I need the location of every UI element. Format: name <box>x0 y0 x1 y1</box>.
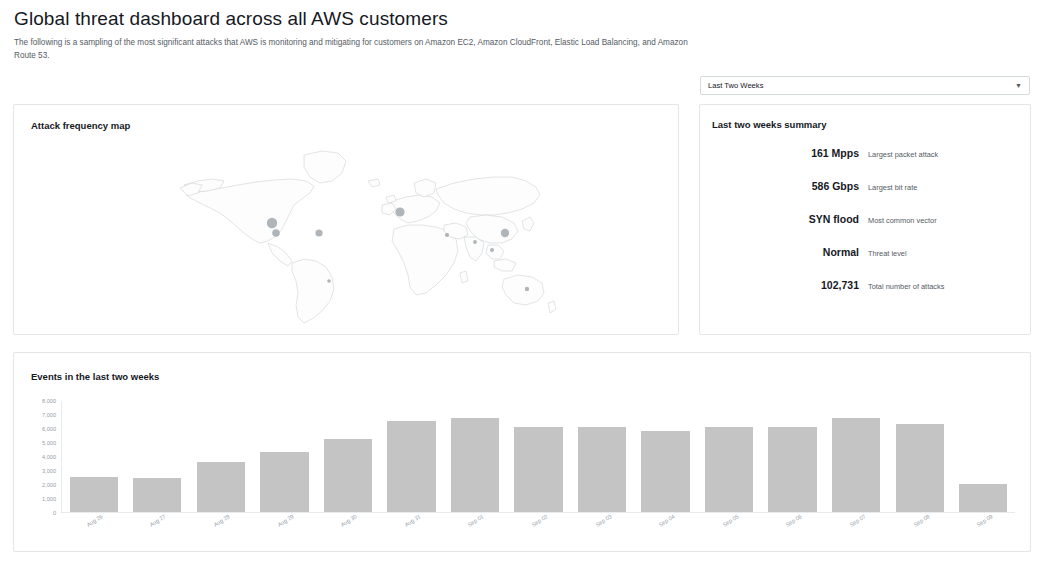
bar-slot <box>380 401 444 512</box>
y-axis-tick: 5,000 <box>42 440 56 446</box>
x-axis-tick-label: Sep 04 <box>658 513 676 527</box>
x-tick-slot: Aug 28 <box>188 514 252 548</box>
chart-x-axis: Aug 26Aug 27Aug 28Aug 29Aug 30Aug 31Sep … <box>61 514 1015 548</box>
chart-bars <box>62 401 1015 512</box>
x-axis-tick-label: Sep 06 <box>785 513 803 527</box>
x-axis-tick-label: Sep 02 <box>530 513 548 527</box>
x-tick-slot: Sep 03 <box>570 514 634 548</box>
dashboard-page: Global threat dashboard across all AWS c… <box>0 0 1043 561</box>
summary-value: SYN flood <box>700 213 868 225</box>
chevron-down-icon: ▼ <box>1015 82 1022 89</box>
world-map-svg <box>164 133 564 328</box>
y-axis-tick: 1,000 <box>42 496 56 502</box>
summary-list: 161 MppsLargest packet attack586 GbpsLar… <box>700 147 1030 312</box>
x-axis-tick-label: Sep 01 <box>467 513 485 527</box>
world-map <box>164 133 564 328</box>
bar[interactable] <box>959 484 1007 512</box>
x-tick-slot: Aug 26 <box>61 514 125 548</box>
marker-southeast-asia <box>490 248 494 252</box>
marker-us-west-south <box>272 229 280 237</box>
x-tick-slot: Aug 30 <box>315 514 379 548</box>
summary-value: Normal <box>700 246 868 258</box>
y-axis-tick: 4,000 <box>42 454 56 460</box>
bar-slot <box>443 401 507 512</box>
x-tick-slot: Sep 07 <box>824 514 888 548</box>
bar[interactable] <box>768 427 816 512</box>
marker-us-east <box>315 229 322 236</box>
x-axis-tick-label: Aug 29 <box>276 513 294 527</box>
y-axis-tick: 2,000 <box>42 482 56 488</box>
x-axis-tick-label: Sep 09 <box>976 513 994 527</box>
bar[interactable] <box>832 418 880 512</box>
attack-frequency-map-panel: Attack frequency map <box>13 104 679 335</box>
summary-label: Total number of attacks <box>868 282 944 291</box>
marker-australia <box>525 287 529 291</box>
summary-label: Largest packet attack <box>868 150 938 159</box>
bar-slot <box>189 401 253 512</box>
marker-india <box>473 240 477 244</box>
bar-slot <box>316 401 380 512</box>
x-tick-slot: Sep 04 <box>633 514 697 548</box>
bar-slot <box>697 401 761 512</box>
bar[interactable] <box>705 427 753 512</box>
events-panel: Events in the last two weeks 8,0007,0006… <box>13 352 1031 552</box>
summary-panel-title: Last two weeks summary <box>712 119 827 130</box>
period-select[interactable]: Last Two Weeks ▼ <box>700 76 1030 95</box>
x-axis-tick-label: Sep 03 <box>594 513 612 527</box>
bar[interactable] <box>197 462 245 512</box>
bar[interactable] <box>578 427 626 512</box>
x-axis-tick-label: Aug 30 <box>340 513 358 527</box>
chart-plot-area <box>61 401 1015 513</box>
bar-slot <box>951 401 1015 512</box>
map-panel-title: Attack frequency map <box>31 120 130 131</box>
summary-panel: Last two weeks summary 161 MppsLargest p… <box>699 104 1031 335</box>
x-tick-slot: Sep 06 <box>761 514 825 548</box>
bar[interactable] <box>896 424 944 512</box>
bar-slot <box>634 401 698 512</box>
summary-value: 102,731 <box>700 279 868 291</box>
bar-slot <box>62 401 126 512</box>
x-axis-tick-label: Sep 05 <box>721 513 739 527</box>
y-axis-tick: 6,000 <box>42 426 56 432</box>
summary-row: NormalThreat level <box>700 246 1030 279</box>
events-bar-chart: 8,0007,0006,0005,0004,0003,0002,0001,000… <box>31 401 1015 541</box>
bar-slot <box>888 401 952 512</box>
y-axis-tick: 8,000 <box>42 398 56 404</box>
summary-row: 102,731Total number of attacks <box>700 279 1030 312</box>
map-landmasses <box>180 151 556 323</box>
marker-ireland <box>395 207 404 216</box>
bar-slot <box>824 401 888 512</box>
bar[interactable] <box>514 427 562 512</box>
bar[interactable] <box>451 418 499 512</box>
x-tick-slot: Aug 31 <box>379 514 443 548</box>
bar[interactable] <box>641 431 689 512</box>
bar[interactable] <box>70 477 118 512</box>
marker-south-america <box>327 279 331 283</box>
bar-slot <box>761 401 825 512</box>
summary-label: Threat level <box>868 249 907 258</box>
bar-slot <box>253 401 317 512</box>
marker-mediterranean <box>445 233 449 237</box>
marker-east-asia <box>501 229 509 237</box>
summary-value: 586 Gbps <box>700 180 868 192</box>
bar[interactable] <box>260 452 308 512</box>
bar-slot <box>507 401 571 512</box>
x-axis-tick-label: Aug 26 <box>85 513 103 527</box>
bar[interactable] <box>387 421 435 512</box>
bar[interactable] <box>133 478 181 512</box>
summary-row: 161 MppsLargest packet attack <box>700 147 1030 180</box>
page-subtitle: The following is a sampling of the most … <box>14 37 704 62</box>
bar[interactable] <box>324 439 372 512</box>
page-title: Global threat dashboard across all AWS c… <box>14 8 448 30</box>
y-axis-tick: 0 <box>53 510 56 516</box>
bar-slot <box>126 401 190 512</box>
bar-slot <box>570 401 634 512</box>
x-tick-slot: Aug 27 <box>125 514 189 548</box>
summary-row: 586 GbpsLargest bit rate <box>700 180 1030 213</box>
x-axis-tick-label: Aug 28 <box>212 513 230 527</box>
x-tick-slot: Sep 01 <box>443 514 507 548</box>
summary-label: Largest bit rate <box>868 183 917 192</box>
y-axis-tick: 3,000 <box>42 468 56 474</box>
chart-y-axis: 8,0007,0006,0005,0004,0003,0002,0001,000… <box>31 401 59 513</box>
x-tick-slot: Sep 02 <box>506 514 570 548</box>
